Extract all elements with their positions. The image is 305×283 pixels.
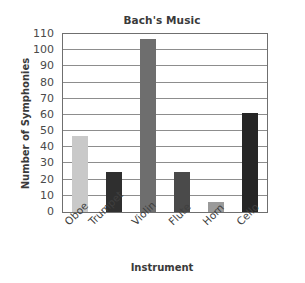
y-tick-label: 50 — [40, 125, 54, 136]
y-tick-label: 100 — [33, 44, 54, 55]
x-axis-title: Instrument — [55, 262, 269, 273]
y-axis-tick-labels: 0102030405060708090100110 — [0, 33, 58, 213]
bars-layer — [63, 34, 267, 212]
plot-area — [62, 33, 268, 213]
y-tick-label: 70 — [40, 92, 54, 103]
x-axis-tick-labels: OboeTrumpetViolinFluteHornCello — [62, 215, 268, 261]
bar-cello — [242, 113, 258, 212]
y-tick-label: 30 — [40, 157, 54, 168]
y-tick-label: 40 — [40, 141, 54, 152]
y-tick-label: 0 — [47, 206, 54, 217]
y-tick-label: 90 — [40, 60, 54, 71]
y-tick-label: 110 — [33, 28, 54, 39]
y-tick-label: 20 — [40, 173, 54, 184]
y-tick-label: 60 — [40, 108, 54, 119]
y-tick-label: 80 — [40, 76, 54, 87]
bar-chart-figure: Bach's Music Number of Symphonies 010203… — [0, 0, 305, 283]
bar-violin — [140, 39, 156, 212]
chart-title: Bach's Music — [55, 14, 269, 26]
y-tick-label: 10 — [40, 189, 54, 200]
